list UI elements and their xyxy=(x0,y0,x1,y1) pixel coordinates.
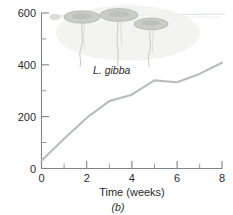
x-label-0: 0 xyxy=(38,172,44,184)
y-label-400: 400 xyxy=(18,59,36,71)
y-label-200: 200 xyxy=(18,111,36,123)
x-label-6: 6 xyxy=(174,172,180,184)
x-label-4: 4 xyxy=(129,172,135,184)
data-series-l-gibba xyxy=(42,63,223,161)
inset-species-label: L. gibba xyxy=(93,64,131,76)
duckweed-frond-highlight xyxy=(72,13,92,19)
figure-panel-b: L. gibba xyxy=(0,0,233,215)
panel-label: (b) xyxy=(112,201,125,213)
duckweed-inset-illustration: L. gibba xyxy=(48,5,225,76)
duckweed-frond-highlight xyxy=(142,20,161,26)
x-axis-tick-labels: 0 2 4 6 8 xyxy=(38,172,225,184)
x-label-8: 8 xyxy=(219,172,225,184)
y-axis-tick-labels: 600 400 200 0 xyxy=(18,7,36,175)
x-axis-title: Time (weeks) xyxy=(99,186,165,198)
y-label-0: 0 xyxy=(30,163,36,175)
duckweed-frond-highlight xyxy=(109,11,130,17)
y-label-600: 600 xyxy=(18,7,36,19)
line-chart: L. gibba xyxy=(0,0,233,215)
duckweed-bud-icon xyxy=(51,14,60,19)
x-label-2: 2 xyxy=(84,172,90,184)
